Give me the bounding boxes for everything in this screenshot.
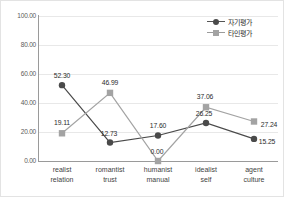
- data-point-marker: [251, 136, 257, 142]
- x-tick-label: idealistself: [195, 165, 217, 184]
- square-marker-icon: [213, 30, 219, 36]
- data-point-marker: [59, 82, 65, 88]
- legend-label-other: 타인평가: [228, 28, 252, 38]
- legend-label-self: 자기평가: [228, 17, 252, 27]
- data-point-marker: [155, 158, 161, 164]
- line-chart: 0.0020.0040.0060.0080.00100.00 52.3012.7…: [0, 0, 285, 198]
- legend-line-other: [207, 32, 225, 33]
- data-point-marker: [251, 118, 257, 124]
- x-tick-label: romantisttrust: [96, 165, 125, 184]
- value-label: 46.99: [102, 78, 119, 85]
- value-label: 19.11: [54, 119, 70, 126]
- value-label: 15.25: [259, 137, 276, 144]
- legend-item-other[interactable]: 타인평가: [207, 27, 275, 38]
- value-label: 0.00: [151, 148, 164, 155]
- x-tick-label: humanistmanual: [144, 165, 172, 184]
- value-label: 26.25: [196, 109, 213, 116]
- legend-item-self[interactable]: 자기평가: [207, 16, 275, 27]
- value-label: 37.06: [197, 93, 214, 100]
- x-tick-label: agentculture: [243, 165, 264, 184]
- x-tick-label: realistrelation: [51, 165, 74, 184]
- value-label: 52.30: [54, 72, 71, 79]
- chart-legend: 자기평가 타인평가: [205, 14, 277, 40]
- circle-marker-icon: [213, 19, 219, 25]
- data-point-marker: [203, 120, 209, 126]
- data-point-marker: [59, 130, 65, 136]
- data-point-marker: [107, 90, 113, 96]
- value-label: 12.73: [101, 129, 118, 136]
- data-point-marker: [155, 132, 161, 138]
- data-point-marker: [107, 139, 113, 145]
- x-axis-tick-labels: realistrelationromantisttrusthumanistman…: [38, 165, 278, 195]
- value-label: 17.60: [150, 122, 167, 129]
- legend-line-self: [207, 21, 225, 22]
- value-label: 27.24: [261, 120, 278, 127]
